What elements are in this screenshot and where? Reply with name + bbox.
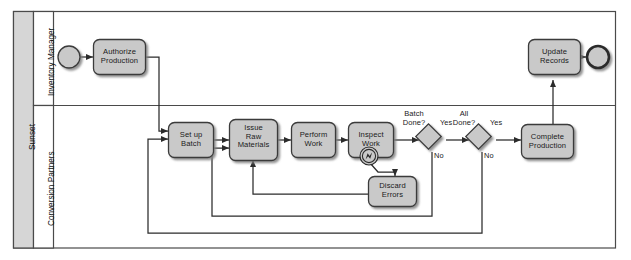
start-event[interactable] — [58, 46, 80, 68]
error-boundary-event[interactable] — [360, 147, 378, 165]
bpmn-diagram-canvas: Sunset Inventory Manager Conversion Part… — [0, 0, 631, 260]
task-discard-errors[interactable] — [369, 177, 417, 207]
task-issue-raw-materials[interactable] — [230, 120, 278, 161]
task-authorize-production[interactable] — [94, 40, 146, 75]
pool-label: Sunset — [27, 124, 37, 150]
task-perform-work[interactable] — [292, 123, 336, 158]
task-complete-production[interactable] — [522, 125, 574, 159]
lane-label-conversion-partners: Conversion Partners — [47, 151, 56, 226]
task-update-records[interactable] — [529, 40, 581, 75]
bpmn-diagram-svg — [0, 0, 631, 260]
end-event[interactable] — [587, 46, 609, 68]
task-set-up-batch[interactable] — [169, 123, 214, 158]
lane-label-inventory-manager: Inventory Manager — [47, 28, 56, 96]
